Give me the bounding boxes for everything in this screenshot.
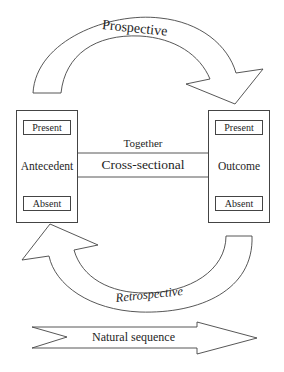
natural-sequence-label: Natural sequence (92, 331, 175, 343)
antecedent-box: Present Antecedent Absent (16, 110, 78, 223)
outcome-present-box: Present (215, 120, 263, 135)
outcome-label: Outcome (209, 161, 269, 173)
outcome-box: Present Outcome Absent (208, 110, 270, 223)
together-label: Together (78, 138, 208, 149)
outcome-absent-box: Absent (215, 196, 263, 211)
antecedent-present-box: Present (23, 120, 71, 135)
antecedent-label: Antecedent (17, 161, 77, 173)
cross-sectional-label: Cross-sectional (78, 158, 208, 172)
antecedent-absent-box: Absent (23, 196, 71, 211)
